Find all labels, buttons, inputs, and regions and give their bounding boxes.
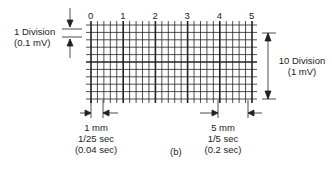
- bottom-left-label-line2: 1/25 sec: [66, 133, 126, 144]
- right-label-line1: 10 Division: [272, 55, 332, 66]
- bottom-left-label-line1: 1 mm: [66, 122, 126, 133]
- left-label-line2: (0.1 mV): [14, 37, 55, 48]
- bottom-right-label-line1: 5 mm: [193, 122, 253, 133]
- bottom-left-label: 1 mm 1/25 sec (0.04 sec): [66, 122, 126, 155]
- column-number: 5: [249, 10, 254, 21]
- bottom-right-label: 5 mm 1/5 sec (0.2 sec): [193, 122, 253, 155]
- left-label: 1 Division (0.1 mV): [14, 26, 55, 48]
- bottom-right-label-line2: 1/5 sec: [193, 133, 253, 144]
- bottom-right-label-line3: (0.2 sec): [193, 144, 253, 155]
- left-label-line1: 1 Division: [14, 26, 55, 37]
- right-label-line2: (1 mV): [272, 66, 332, 77]
- figure-caption: (b): [170, 146, 182, 157]
- column-number: 1: [120, 10, 125, 21]
- right-label: 10 Division (1 mV): [272, 55, 332, 77]
- column-number: 0: [88, 10, 93, 21]
- annotation-arrows: [62, 8, 276, 118]
- column-number: 2: [152, 10, 157, 21]
- bottom-left-label-line3: (0.04 sec): [66, 144, 126, 155]
- column-number: 4: [217, 10, 222, 21]
- column-number: 3: [185, 10, 190, 21]
- grid: [86, 21, 257, 103]
